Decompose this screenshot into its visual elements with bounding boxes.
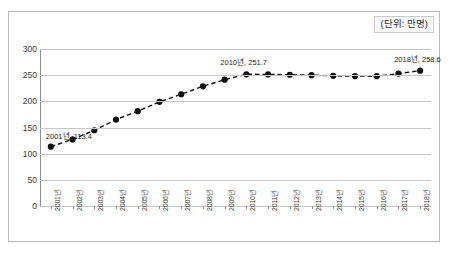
y-tick-label: 200: [13, 97, 37, 106]
x-tick-label: 2006년: [162, 190, 169, 211]
y-tick-label: 100: [13, 150, 37, 159]
x-axis-tick: [51, 206, 52, 209]
x-tick-label: 2004년: [119, 190, 126, 211]
x-axis-tick: [355, 206, 356, 209]
x-axis-tick: [398, 206, 399, 209]
x-tick-label: 2002년: [76, 190, 83, 211]
x-axis-tick: [181, 206, 182, 209]
y-tick-label: 250: [13, 71, 37, 80]
data-point: [417, 68, 423, 74]
gridline: [40, 101, 431, 102]
x-tick-label: 2013년: [315, 190, 322, 211]
y-tick-label: 150: [13, 124, 37, 133]
x-tick-label: 2009년: [228, 190, 235, 211]
x-axis-tick: [377, 206, 378, 209]
data-point: [200, 83, 206, 89]
x-tick-label: 2003년: [97, 190, 104, 211]
x-tick-label: 2017년: [401, 190, 408, 211]
gridline: [40, 154, 431, 155]
x-axis-tick: [312, 206, 313, 209]
x-tick-label: 2008년: [206, 190, 213, 211]
x-tick-label: 2012년: [293, 190, 300, 211]
x-axis-tick: [159, 206, 160, 209]
x-axis-tick: [73, 206, 74, 209]
plot-area: [40, 49, 431, 206]
screenshot-root: (단위: 만명) 050100150200250300 2001년2002년20…: [0, 0, 450, 258]
x-axis-tick-labels: 2001년2002년2003년2004년2005년2006년2007년2008년…: [40, 209, 431, 253]
x-axis-tick: [203, 206, 204, 209]
x-axis-tick: [94, 206, 95, 209]
data-point: [178, 91, 184, 97]
x-axis-tick: [138, 206, 139, 209]
y-tick-label: 0: [13, 202, 37, 211]
gridline: [40, 180, 431, 181]
x-tick-label: 2011년: [271, 191, 278, 211]
chart-frame: (단위: 만명) 050100150200250300 2001년2002년20…: [8, 11, 440, 242]
gridline: [40, 49, 431, 50]
data-point-label: 2001년, 113.4: [46, 133, 92, 141]
data-point-label: 2018년, 258.6: [394, 56, 441, 64]
gridline: [40, 75, 431, 76]
x-axis-tick: [290, 206, 291, 209]
x-tick-label: 2016년: [380, 190, 387, 211]
series-line: [51, 71, 420, 147]
x-tick-label: 2018년: [423, 190, 430, 211]
data-point-label: 2010년, 251.7: [220, 59, 267, 67]
x-tick-label: 2015년: [358, 190, 365, 211]
x-tick-label: 2010년: [249, 190, 256, 211]
x-axis-tick: [225, 206, 226, 209]
y-tick-label: 300: [13, 45, 37, 54]
y-tick-label: 50: [13, 176, 37, 185]
x-axis-tick: [420, 206, 421, 209]
data-point: [48, 144, 54, 150]
x-tick-label: 2001년: [54, 190, 61, 211]
x-axis-tick: [246, 206, 247, 209]
x-tick-label: 2007년: [184, 190, 191, 211]
data-point: [374, 73, 380, 79]
x-tick-label: 2005년: [141, 190, 148, 211]
gridline: [40, 128, 431, 129]
x-axis-tick: [268, 206, 269, 209]
x-axis-tick: [333, 206, 334, 209]
data-point: [222, 77, 228, 83]
data-point: [135, 108, 141, 114]
x-tick-label: 2014년: [336, 190, 343, 211]
unit-caption: (단위: 만명): [374, 16, 434, 33]
x-axis-tick: [116, 206, 117, 209]
data-point: [113, 116, 119, 122]
